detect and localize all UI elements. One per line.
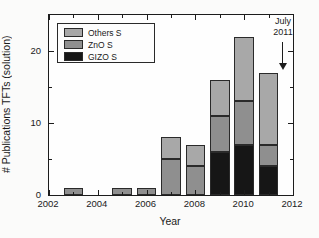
y-tick-right-major-0 <box>288 195 293 196</box>
y-tick-left-minor-15 <box>49 87 52 88</box>
x-axis-label: Year <box>48 215 292 227</box>
legend-swatch-zno-s <box>64 40 83 49</box>
y-tick-left-minor-5 <box>49 159 52 160</box>
x-tick-top-major-2004 <box>98 15 99 20</box>
annotation-arrow-line <box>282 42 283 64</box>
y-tick-right-minor-15 <box>290 87 293 88</box>
x-tick-top-minor-2005 <box>122 15 123 18</box>
x-tick-top-minor-2009 <box>220 15 221 18</box>
bar-segment-2007-others-s <box>161 137 181 159</box>
bar-segment-2009-gizo-s <box>210 152 230 195</box>
bar-segment-2007-zno-s <box>161 159 181 195</box>
x-tick-top-minor-2007 <box>171 15 172 18</box>
x-tick-bottom-major-2004 <box>98 190 99 195</box>
bar-segment-2008-others-s <box>186 145 206 167</box>
x-tick-bottom-major-2010 <box>244 190 245 195</box>
legend-row-zno-s: ZnO S <box>64 39 154 50</box>
y-tick-label-0: 0 <box>0 189 41 200</box>
annotation-line-2: 2011 <box>268 27 298 38</box>
legend-box: Others S ZnO S GIZO S <box>57 23 155 63</box>
x-tick-bottom-minor-2003 <box>73 192 74 195</box>
x-tick-label-2006: 2006 <box>131 198 161 209</box>
x-tick-top-major-2002 <box>49 15 50 20</box>
x-tick-bottom-minor-2009 <box>220 192 221 195</box>
x-tick-bottom-minor-2011 <box>269 192 270 195</box>
bar-segment-2009-zno-s <box>210 116 230 152</box>
x-tick-label-2008: 2008 <box>179 198 209 209</box>
y-tick-right-major-20 <box>288 51 293 52</box>
legend-label-others-s: Others S <box>88 28 122 38</box>
bar-segment-2010-gizo-s <box>234 145 254 195</box>
annotation-line-1: July <box>268 16 298 27</box>
bar-segment-2011-others-s <box>259 73 279 145</box>
legend-row-others-s: Others S <box>64 27 154 38</box>
legend-label-gizo-s: GIZO S <box>88 52 117 62</box>
annotation-july-2011: July 2011 <box>268 16 298 38</box>
y-tick-right-major-10 <box>288 123 293 124</box>
x-tick-top-minor-2003 <box>73 15 74 18</box>
annotation-arrow-head-icon <box>279 63 287 70</box>
y-tick-right-minor-5 <box>290 159 293 160</box>
bar-segment-2011-gizo-s <box>259 166 279 195</box>
bar-segment-2009-others-s <box>210 80 230 116</box>
x-tick-top-major-2010 <box>244 15 245 20</box>
x-tick-bottom-minor-2005 <box>122 192 123 195</box>
bar-segment-2011-zno-s <box>259 145 279 167</box>
y-axis-label: # Publications TFTs (solution) <box>0 14 13 194</box>
x-tick-bottom-major-2006 <box>147 190 148 195</box>
x-tick-label-2010: 2010 <box>228 198 258 209</box>
legend-swatch-others-s <box>64 28 83 37</box>
x-tick-label-2012: 2012 <box>277 198 307 209</box>
y-tick-left-major-20 <box>49 51 54 52</box>
y-tick-label-20: 20 <box>0 45 41 56</box>
legend-label-zno-s: ZnO S <box>88 40 113 50</box>
x-tick-bottom-major-2012 <box>293 190 294 195</box>
legend-row-gizo-s: GIZO S <box>64 51 154 62</box>
y-tick-left-major-10 <box>49 123 54 124</box>
legend-swatch-gizo-s <box>64 52 83 61</box>
x-tick-label-2004: 2004 <box>82 198 112 209</box>
y-tick-left-major-0 <box>49 195 54 196</box>
bar-segment-2010-zno-s <box>234 101 254 144</box>
y-tick-label-10: 10 <box>0 117 41 128</box>
x-tick-bottom-major-2008 <box>195 190 196 195</box>
x-tick-bottom-minor-2007 <box>171 192 172 195</box>
bar-segment-2010-others-s <box>234 37 254 102</box>
x-tick-top-major-2006 <box>147 15 148 20</box>
x-tick-top-major-2008 <box>195 15 196 20</box>
figure: # Publications TFTs (solution) Year Othe… <box>0 0 319 238</box>
